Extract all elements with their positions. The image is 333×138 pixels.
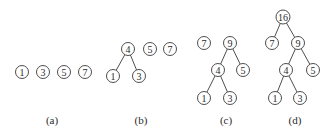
node-label: 7 [83, 67, 88, 78]
tree-node: 5 [307, 64, 320, 77]
tree-node: 4 [280, 64, 293, 77]
tree-node: 1 [198, 92, 211, 105]
node-label: 1 [20, 67, 25, 78]
tree-node: 1 [269, 92, 282, 105]
panel-c: 794513(c) [198, 37, 250, 128]
tree-edge [289, 49, 296, 64]
tree-node: 7 [79, 66, 92, 79]
tree-node: 5 [58, 66, 71, 79]
tree-node: 9 [224, 37, 237, 50]
node-label: 3 [41, 67, 46, 78]
node-label: 5 [311, 65, 316, 76]
node-label: 3 [298, 93, 303, 104]
tree-node: 4 [122, 43, 135, 56]
tree-node: 3 [37, 66, 50, 79]
tree-edge [277, 76, 283, 92]
node-label: 3 [137, 71, 142, 82]
tree-node: 3 [224, 92, 237, 105]
node-label: 16 [278, 12, 288, 23]
node-label: 3 [228, 93, 233, 104]
node-label: 9 [296, 38, 301, 49]
tree-node: 7 [198, 37, 211, 50]
tree-edge [301, 49, 310, 65]
panel-d: 16794513(d) [266, 10, 320, 127]
tree-edge [275, 23, 281, 37]
node-label: 5 [241, 65, 246, 76]
huffman-tree-construction-diagram: 1357(a)45713(b)794513(c)16794513(d) [0, 0, 333, 138]
tree-node: 7 [266, 37, 279, 50]
node-label: 4 [284, 65, 289, 76]
tree-edge [233, 49, 240, 64]
panel-caption: (c) [220, 114, 233, 127]
tree-node: 16 [276, 10, 290, 24]
tree-node: 1 [107, 70, 120, 83]
panel-caption: (d) [289, 114, 302, 127]
tree-edge [286, 23, 295, 38]
node-label: 5 [62, 67, 67, 78]
tree-edge [207, 76, 215, 92]
node-label: 9 [228, 38, 233, 49]
node-label: 1 [273, 93, 278, 104]
panel-a: 1357(a) [16, 66, 92, 128]
tree-node: 1 [16, 66, 29, 79]
node-label: 4 [216, 65, 221, 76]
tree-edge [221, 76, 228, 92]
panel-caption: (a) [46, 114, 59, 127]
tree-node: 5 [144, 43, 157, 56]
tree-edge [116, 55, 125, 71]
tree-node: 5 [237, 64, 250, 77]
tree-edge [221, 49, 228, 64]
node-label: 1 [111, 71, 116, 82]
node-label: 7 [270, 38, 275, 49]
node-label: 7 [168, 44, 173, 55]
tree-node: 4 [212, 64, 225, 77]
node-label: 5 [148, 44, 153, 55]
node-label: 7 [202, 38, 207, 49]
tree-node: 9 [292, 37, 305, 50]
panel-b: 45713(b) [107, 43, 177, 128]
node-label: 1 [202, 93, 207, 104]
tree-edge [130, 55, 136, 70]
tree-edge [289, 76, 297, 92]
node-label: 4 [126, 44, 131, 55]
tree-node: 7 [164, 43, 177, 56]
panel-caption: (b) [135, 114, 148, 127]
tree-node: 3 [133, 70, 146, 83]
tree-node: 3 [294, 92, 307, 105]
